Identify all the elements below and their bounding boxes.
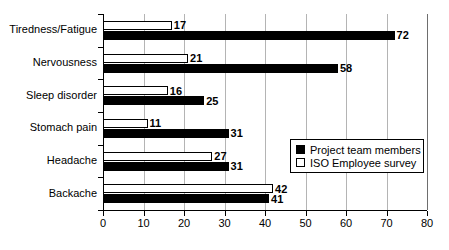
category-label: Tiredness/Fatigue [0, 23, 97, 36]
bar-value-label: 16 [170, 86, 182, 97]
x-tick-50 [306, 211, 307, 216]
bar-value-label: 21 [190, 53, 202, 64]
plot-area [103, 14, 427, 210]
legend-swatch-icon [296, 145, 305, 154]
y-tick-2 [98, 79, 103, 80]
y-axis-line [103, 14, 104, 210]
gridline-50 [306, 14, 307, 210]
x-tick-60 [346, 211, 347, 216]
category-label: Headache [0, 154, 97, 167]
bar [103, 86, 168, 95]
x-tick-label-20: 20 [164, 217, 204, 230]
chart-legend: Project team membersISO Employee survey [290, 139, 424, 173]
bar-chart: 01020304050607080 Tiredness/FatigueNervo… [0, 0, 449, 250]
bar [103, 31, 395, 40]
bar-value-label: 31 [231, 161, 243, 172]
bar [103, 152, 212, 161]
x-tick-label-10: 10 [124, 217, 164, 230]
y-tick-4 [98, 145, 103, 146]
x-tick-label-0: 0 [83, 217, 123, 230]
bar-value-label: 58 [340, 63, 352, 74]
x-tick-30 [225, 211, 226, 216]
y-tick-3 [98, 112, 103, 113]
gridline-60 [346, 14, 347, 210]
x-tick-label-30: 30 [205, 217, 245, 230]
y-tick-1 [98, 47, 103, 48]
gridline-30 [225, 14, 226, 210]
bar-value-label: 25 [206, 96, 218, 107]
legend-label: Project team members [310, 144, 421, 156]
bar-value-label: 72 [397, 30, 409, 41]
bar [103, 119, 148, 128]
bar-value-label: 11 [150, 118, 162, 129]
bar-value-label: 17 [174, 20, 186, 31]
gridline-20 [184, 14, 185, 210]
y-tick-0 [98, 14, 103, 15]
legend-label: ISO Employee survey [310, 157, 416, 169]
category-label: Backache [0, 187, 97, 200]
x-tick-label-60: 60 [326, 217, 366, 230]
legend-swatch-icon [296, 158, 305, 167]
bar-value-label: 31 [231, 128, 243, 139]
gridline-40 [265, 14, 266, 210]
bar [103, 194, 269, 203]
x-tick-label-50: 50 [286, 217, 326, 230]
x-tick-label-40: 40 [245, 217, 285, 230]
bar [103, 129, 229, 138]
category-label: Nervousness [0, 56, 97, 69]
category-label: Sleep disorder [0, 89, 97, 102]
bar-value-label: 41 [271, 194, 283, 205]
y-tick-5 [98, 177, 103, 178]
gridline-10 [144, 14, 145, 210]
x-tick-20 [184, 211, 185, 216]
x-tick-40 [265, 211, 266, 216]
gridline-70 [387, 14, 388, 210]
bar [103, 96, 204, 105]
legend-item: Project team members [296, 143, 419, 156]
bar-value-label: 27 [214, 151, 226, 162]
x-tick-10 [144, 211, 145, 216]
x-tick-label-70: 70 [367, 217, 407, 230]
bar [103, 64, 338, 73]
legend-item: ISO Employee survey [296, 156, 419, 169]
bar [103, 54, 188, 63]
x-tick-label-80: 80 [407, 217, 447, 230]
bar [103, 162, 229, 171]
y-tick-end [98, 210, 103, 211]
x-tick-0 [103, 211, 104, 216]
category-label: Stomach pain [0, 121, 97, 134]
bar [103, 184, 273, 193]
x-tick-80 [427, 211, 428, 216]
x-tick-70 [387, 211, 388, 216]
bar [103, 21, 172, 30]
gridline-80 [427, 14, 428, 210]
